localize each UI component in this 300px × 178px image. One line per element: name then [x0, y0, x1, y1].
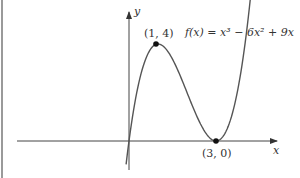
function-plot: y x (1, 4) (3, 0) f(x) = x³ − 6x² + 9x: [0, 0, 300, 178]
min-point-label: (3, 0): [202, 147, 232, 160]
chart-frame: y x (1, 4) (3, 0) f(x) = x³ − 6x² + 9x: [0, 0, 300, 178]
x-axis-label: x: [273, 144, 280, 157]
max-point-label: (1, 4): [144, 27, 174, 40]
function-label: f(x) = x³ − 6x² + 9x: [184, 26, 295, 39]
max-point-marker: [153, 41, 159, 47]
function-curve: [126, 0, 254, 164]
min-point-marker: [213, 138, 219, 144]
y-axis-label: y: [133, 5, 141, 18]
